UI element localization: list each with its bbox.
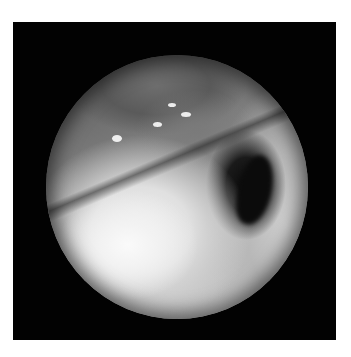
- endoscopic-view: [46, 55, 308, 319]
- lens-vignette: [46, 55, 308, 319]
